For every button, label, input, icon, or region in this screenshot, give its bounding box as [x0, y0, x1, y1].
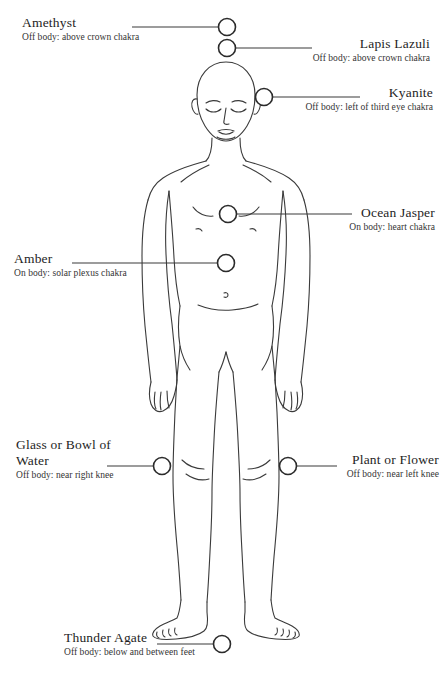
- callout-desc-amethyst: Off body: above crown chakra: [22, 32, 197, 43]
- callout-title-plant-or-flower: Plant or Flower: [334, 452, 439, 468]
- callout-amethyst: Amethyst Off body: above crown chakra: [22, 15, 197, 43]
- callout-kyanite: Kyanite Off body: left of third eye chak…: [288, 85, 433, 113]
- marker-kyanite: [256, 89, 273, 106]
- callout-title-ocean-jasper: Ocean Jasper: [330, 205, 435, 221]
- marker-lapis-lazuli: [219, 40, 236, 57]
- callout-desc-glass-or-bowl-of-water: Off body: near right knee: [16, 470, 146, 481]
- marker-glass-or-bowl-of-water: [154, 458, 171, 475]
- callout-desc-thunder-agate: Off body: below and between feet: [64, 647, 214, 658]
- diagram-canvas: Amethyst Off body: above crown chakra La…: [0, 0, 441, 687]
- callout-thunder-agate: Thunder Agate Off body: below and betwee…: [64, 630, 214, 658]
- callout-title-lapis-lazuli: Lapis Lazuli: [250, 36, 430, 52]
- callout-title-amber: Amber: [14, 251, 144, 267]
- marker-plant-or-flower: [280, 458, 297, 475]
- callout-glass-or-bowl-of-water: Glass or Bowl of Water Off body: near ri…: [16, 437, 146, 481]
- callout-amber: Amber On body: solar plexus chakra: [14, 251, 144, 279]
- marker-amber: [218, 255, 235, 272]
- callout-title-kyanite: Kyanite: [288, 85, 433, 101]
- marker-ocean-jasper: [220, 206, 237, 223]
- leader-lines: [72, 27, 360, 644]
- callout-plant-or-flower: Plant or Flower Off body: near left knee: [334, 452, 439, 480]
- callout-title-amethyst: Amethyst: [22, 15, 197, 31]
- callout-desc-amber: On body: solar plexus chakra: [14, 268, 144, 279]
- callout-title-glass-or-bowl-of-water: Glass or Bowl of Water: [16, 437, 146, 469]
- callout-desc-lapis-lazuli: Off body: above crown chakra: [250, 53, 430, 64]
- callout-desc-kyanite: Off body: left of third eye chakra: [288, 102, 433, 113]
- callout-title-thunder-agate: Thunder Agate: [64, 630, 214, 646]
- marker-amethyst: [219, 19, 236, 36]
- callout-ocean-jasper: Ocean Jasper On body: heart chakra: [330, 205, 435, 233]
- callout-desc-plant-or-flower: Off body: near left knee: [334, 469, 439, 480]
- marker-thunder-agate: [214, 636, 231, 653]
- callout-desc-ocean-jasper: On body: heart chakra: [330, 222, 435, 233]
- callout-lapis-lazuli: Lapis Lazuli Off body: above crown chakr…: [250, 36, 430, 64]
